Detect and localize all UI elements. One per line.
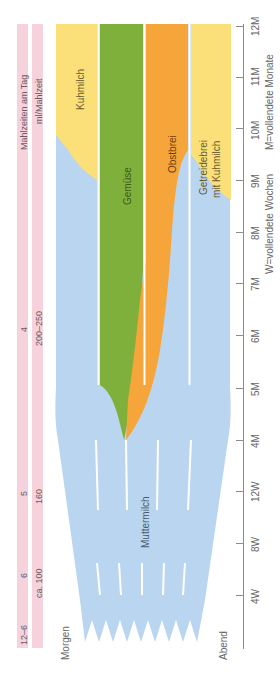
axis-note-weeks: W=vollendete Wochen <box>264 174 275 274</box>
axis-label-4W: 4W <box>250 589 261 604</box>
axis-label-12W: 12W <box>250 481 261 502</box>
axis-tick-10M <box>236 128 244 129</box>
axis-label-6M: 6M <box>250 329 261 343</box>
getreidebrei-label-1: Getreidebrei <box>198 140 209 195</box>
axis-label-9M: 9M <box>250 174 261 188</box>
axis-tick-7M <box>236 283 244 284</box>
axis-label-7M: 7M <box>250 277 261 291</box>
abend-label: Abend <box>218 631 229 660</box>
axis-tick-4W <box>236 595 244 596</box>
axis-label-8M: 8M <box>250 226 261 240</box>
obstbrei-label: Obstbrei <box>167 135 178 173</box>
axis-tick-8W <box>236 543 244 544</box>
morgen-label: Morgen <box>60 626 71 660</box>
muttermilch-label: Muttermilch <box>140 496 151 548</box>
kuhmilch-label: Kuhmilch <box>75 69 86 110</box>
axis-tick-12W <box>236 491 244 492</box>
axis-label-5M: 5M <box>250 382 261 396</box>
axis-label-10M: 10M <box>250 121 261 140</box>
axis-note-months: M=vollendete Monate <box>264 54 275 150</box>
time-axis <box>243 24 244 649</box>
axis-tick-6M <box>236 335 244 336</box>
axis-tick-4M <box>236 440 244 441</box>
feeding-chart <box>0 0 280 678</box>
axis-label-4M: 4M <box>250 434 261 448</box>
axis-label-12M: 12M <box>250 17 261 36</box>
axis-tick-11M <box>236 77 244 78</box>
axis-tick-9M <box>236 180 244 181</box>
axis-tick-5M <box>236 388 244 389</box>
getreidebrei-label-2: mit Kuhmilch <box>211 141 222 198</box>
axis-label-8W: 8W <box>250 537 261 552</box>
axis-label-11M: 11M <box>250 67 261 86</box>
gemuese-label: Gemüse <box>122 167 133 205</box>
axis-tick-8M <box>236 232 244 233</box>
axis-tick-12M <box>236 26 244 27</box>
